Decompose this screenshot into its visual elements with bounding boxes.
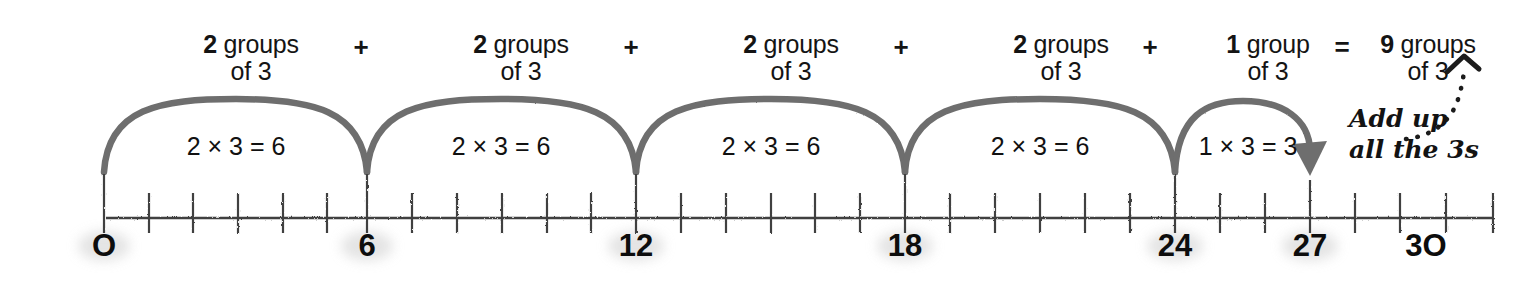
tick-label-30: 3O bbox=[1394, 230, 1458, 261]
tick-label-12: 12 bbox=[604, 230, 668, 261]
worksheet-diagram: 2 groups of 3 + 2 groups of 3 + 2 groups… bbox=[0, 0, 1513, 282]
tick-label-0: O bbox=[74, 230, 134, 261]
annotation-note: Add up all the 3s bbox=[1349, 104, 1479, 165]
tick-label-18: 18 bbox=[873, 230, 937, 261]
annotation-line-2: all the 3s bbox=[1349, 135, 1479, 166]
axis-group bbox=[104, 174, 1495, 233]
tick-label-24: 24 bbox=[1143, 230, 1207, 261]
jump-equation-4: 2 × 3 = 6 bbox=[960, 134, 1120, 159]
tick-label-27: 27 bbox=[1278, 230, 1342, 261]
jump-equation-5: 1 × 3 = 3 bbox=[1185, 134, 1311, 159]
tick-label-6: 6 bbox=[337, 230, 397, 261]
tick-group bbox=[104, 174, 1493, 233]
annotation-line-1: Add up bbox=[1349, 104, 1479, 135]
jump-equation-1: 2 × 3 = 6 bbox=[156, 134, 316, 159]
jump-equation-3: 2 × 3 = 6 bbox=[691, 134, 851, 159]
jump-equation-2: 2 × 3 = 6 bbox=[421, 134, 581, 159]
